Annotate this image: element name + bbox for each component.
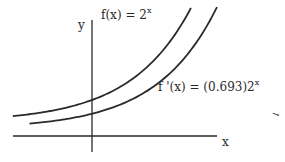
series-label-f-exp: x (147, 6, 152, 15)
series-label-f-main: f(x) = 2 (101, 8, 147, 22)
x-axis-label: x (222, 135, 229, 149)
chart: x y f(x) = 2x f '(x) = (0.693)2x → (0, 0, 285, 162)
series-line-fprime (30, 7, 218, 124)
series-line-f (13, 8, 191, 116)
y-axis-label: y (77, 18, 85, 32)
series-label-fprime: f '(x) = (0.693)2x (158, 78, 260, 94)
series-label-fprime-exp: x (255, 78, 260, 87)
series-label-f: f(x) = 2x (101, 6, 152, 22)
stray-mark: → (270, 108, 281, 120)
series-label-fprime-main: f '(x) = (0.693)2 (158, 80, 255, 94)
